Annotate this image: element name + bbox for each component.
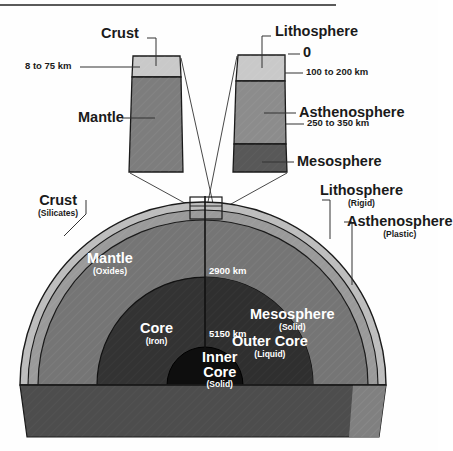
label-earth-crust: Crust (Silicates)	[38, 192, 78, 218]
label-earth-inner-core: Inner Core (Solid)	[202, 350, 237, 389]
label-earth-mantle-sub: (Oxides)	[87, 267, 133, 276]
label-earth-core: Core (Iron)	[140, 320, 173, 346]
label-crust-thickness: 8 to 75 km	[25, 61, 71, 71]
label-earth-outer-core-sub: (Liquid)	[232, 350, 308, 359]
label-crust-column: Crust	[101, 26, 139, 41]
label-earth-lithosphere-sub: (Rigid)	[320, 199, 403, 208]
label-earth-core-main: Core	[140, 320, 173, 336]
label-earth-crust-main: Crust	[39, 192, 77, 208]
label-earth-mesosphere-sub: (Solid)	[250, 323, 335, 332]
label-earth-inner-core-sub: (Solid)	[202, 380, 237, 389]
label-earth-lithosphere: Lithosphere (Rigid)	[320, 182, 403, 208]
column-layer-mantle	[129, 77, 183, 172]
label-earth-lithosphere-main: Lithosphere	[320, 182, 403, 198]
label-mesosphere-column: Mesosphere	[297, 154, 382, 169]
label-earth-asthenosphere: Asthenosphere (Plastic)	[347, 213, 453, 239]
label-mantle-column: Mantle	[78, 110, 124, 125]
label-depth-5150km: 5150 km	[209, 329, 247, 339]
label-lithosphere-base-depth: 100 to 200 km	[306, 67, 368, 77]
mechanical-column	[207, 36, 304, 209]
label-earth-asthenosphere-sub: (Plastic)	[347, 230, 453, 239]
label-earth-mesosphere-main: Mesosphere	[250, 306, 335, 322]
label-depth-zero: 0	[303, 45, 311, 60]
column-layer-lithosphere	[236, 55, 285, 81]
label-earth-inner-core-line2: Core	[202, 365, 237, 380]
earth-base-slab	[20, 385, 386, 437]
label-earth-mesosphere: Mesosphere (Solid)	[250, 306, 335, 332]
column-layer-mesosphere	[233, 144, 287, 172]
label-earth-inner-core-line1: Inner	[202, 350, 237, 365]
label-earth-crust-sub: (Silicates)	[38, 209, 78, 218]
label-earth-asthenosphere-main: Asthenosphere	[347, 213, 453, 229]
label-depth-2900km: 2900 km	[209, 266, 247, 276]
label-earth-mantle: Mantle (Oxides)	[87, 250, 133, 276]
label-earth-mantle-main: Mantle	[87, 250, 133, 266]
label-asthenosphere-base-depth: 250 to 350 km	[307, 118, 369, 128]
label-earth-core-sub: (Iron)	[140, 337, 173, 346]
label-lithosphere-column: Lithosphere	[275, 24, 358, 39]
